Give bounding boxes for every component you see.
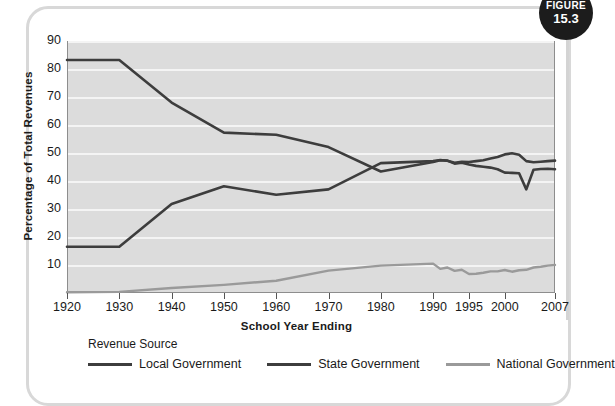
x-tick-label: 1960 <box>251 300 301 314</box>
x-tick-mark <box>224 293 225 299</box>
series-line-local-government <box>67 60 555 189</box>
legend-title: Revenue Source <box>88 337 558 351</box>
x-tick-label: 1980 <box>356 300 406 314</box>
y-axis-title: Percentage of Total Revenues <box>22 46 34 266</box>
x-axis-title: School Year Ending <box>0 320 593 332</box>
x-tick-label: 2000 <box>480 300 530 314</box>
legend-items: Local GovernmentState GovernmentNational… <box>88 357 558 371</box>
legend-item[interactable]: Local Government <box>88 357 241 371</box>
x-tick-label: 1920 <box>42 300 92 314</box>
x-tick-mark <box>555 293 556 299</box>
x-tick-label: 1930 <box>94 300 144 314</box>
y-tick-label: 90 <box>19 33 61 47</box>
x-tick-mark <box>67 293 68 299</box>
x-tick-mark <box>119 293 120 299</box>
x-tick-mark <box>505 293 506 299</box>
x-tick-mark <box>329 293 330 299</box>
x-tick-mark <box>381 293 382 299</box>
x-tick-mark <box>433 293 434 299</box>
legend-label: State Government <box>318 357 419 371</box>
legend-line-swatch <box>267 363 311 366</box>
x-tick-label: 1940 <box>147 300 197 314</box>
legend-item[interactable]: National Government <box>446 357 615 371</box>
x-tick-label: 2007 <box>530 300 580 314</box>
x-tick-mark <box>469 293 470 299</box>
legend-line-swatch <box>446 363 490 366</box>
x-tick-label: 1950 <box>199 300 249 314</box>
legend-line-swatch <box>88 363 132 366</box>
legend-label: National Government <box>497 357 615 371</box>
legend-label: Local Government <box>139 357 241 371</box>
legend: Revenue Source Local GovernmentState Gov… <box>88 337 558 371</box>
series-line-national-government <box>67 264 555 293</box>
legend-item[interactable]: State Government <box>267 357 419 371</box>
x-tick-label: 1970 <box>304 300 354 314</box>
x-tick-mark <box>276 293 277 299</box>
series-layer <box>67 41 555 293</box>
x-tick-mark <box>172 293 173 299</box>
